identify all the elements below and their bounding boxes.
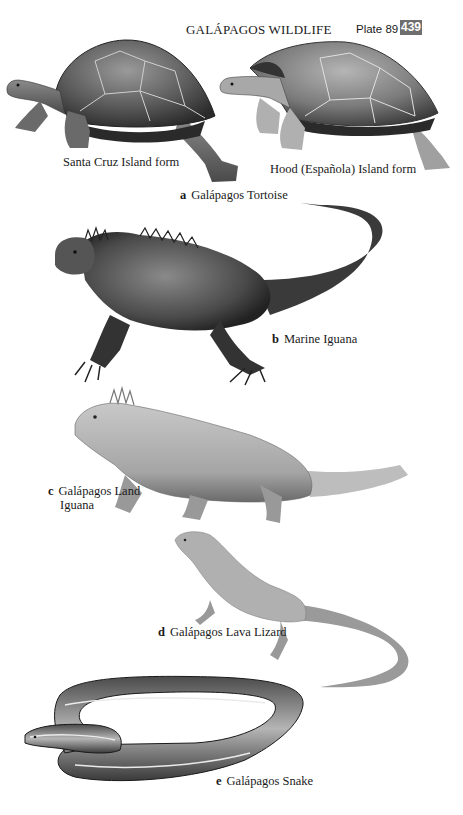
marine-iguana-illustration [50,200,410,400]
label-letter-b: b [272,332,279,346]
species-name-land-iguana-line1: Galápagos Land [59,484,141,498]
label-letter-e: e [216,774,222,788]
page-number-badge: 439 [400,20,422,35]
caption-marine-iguana: bMarine Iguana [272,332,357,347]
caption-hood-island-form: Hood (Española) Island form [270,162,416,177]
caption-land-iguana: cGalápagos Land [48,484,140,499]
label-letter-c: c [48,484,54,498]
caption-lava-lizard: dGalápagos Lava Lizard [158,625,287,640]
caption-santa-cruz-form: Santa Cruz Island form [63,155,179,170]
species-name-marine-iguana: Marine Iguana [284,332,357,346]
land-iguana-illustration [70,385,420,525]
caption-land-iguana-line2: Iguana [60,498,94,513]
label-letter-d: d [158,625,165,639]
caption-galapagos-snake: eGalápagos Snake [216,774,313,789]
plate-number: Plate 89 [356,23,398,35]
hood-island-tortoise-illustration [210,38,463,178]
species-name-snake: Galápagos Snake [227,774,313,788]
species-name-lava-lizard: Galápagos Lava Lizard [170,625,287,639]
galapagos-snake-illustration [15,665,315,790]
